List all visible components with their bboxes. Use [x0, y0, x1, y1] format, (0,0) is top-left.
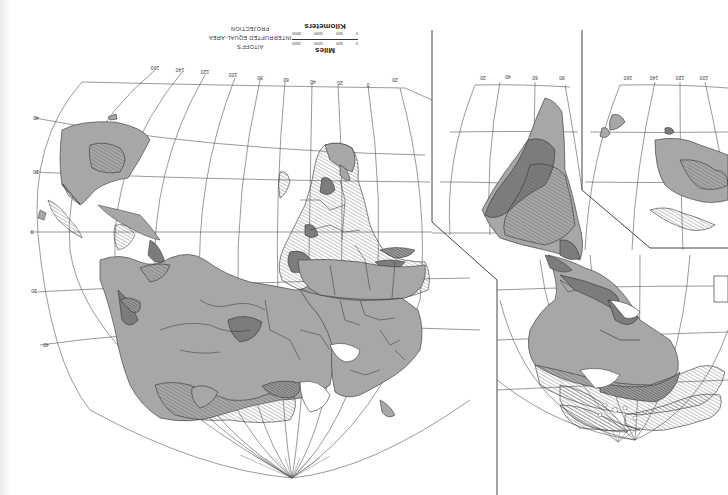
lon-label: 140	[176, 67, 185, 73]
title-line-2: INTERRUPTED EQUAL-AREA	[200, 33, 300, 42]
svg-text:100: 100	[700, 75, 709, 81]
lon-label: 80	[257, 75, 263, 81]
lat-label: 40	[33, 115, 39, 121]
svg-text:80: 80	[559, 75, 565, 81]
lon-label: 100	[229, 72, 238, 78]
lon-label: 0	[366, 82, 369, 88]
inset-box	[714, 276, 728, 302]
svg-text:20: 20	[480, 75, 486, 81]
title-line-3: PROJECTION	[200, 24, 300, 33]
svg-text:140: 140	[650, 75, 659, 81]
lon-label: 20	[392, 77, 398, 83]
south-pole-convergence	[240, 455, 330, 478]
lon-label: 40	[310, 79, 316, 85]
scale-km-label: Kilometers	[292, 22, 358, 31]
lon-label: 160	[151, 65, 160, 71]
lat-label: 20	[33, 169, 39, 175]
world-map: 160 140 120 100 80 60 40 20 0 20 40 20 0…	[0, 0, 728, 495]
lat-label: 0	[30, 229, 33, 235]
landmass-south-america	[482, 98, 583, 260]
landmass-africa	[279, 143, 430, 300]
svg-text:120: 120	[676, 75, 685, 81]
lon-label: 120	[201, 69, 210, 75]
landmass-australia	[60, 114, 150, 205]
scale-bar: Miles 0 500 1000 1500 0 500 1000 2000 Ki…	[292, 22, 358, 55]
lon-label: 20	[337, 80, 343, 86]
landmass-southeast-asia-islands	[38, 200, 165, 263]
landmass-right-lobe-east-asia	[600, 114, 728, 230]
lon-label: 60	[283, 77, 289, 83]
svg-text:40: 40	[505, 74, 511, 80]
scale-km-ticks: 0 500 1000 2000	[292, 31, 358, 36]
svg-text:160: 160	[624, 75, 633, 81]
svg-text:60: 60	[532, 75, 538, 81]
scale-bar-line	[292, 37, 358, 40]
scale-miles-label: Miles	[292, 46, 358, 55]
title-line-1: AITOFF'S	[200, 42, 300, 51]
lat-label: 20	[31, 288, 37, 294]
lat-label: 40	[43, 342, 49, 348]
projection-title-block: AITOFF'S INTERRUPTED EQUAL-AREA PROJECTI…	[200, 24, 300, 51]
